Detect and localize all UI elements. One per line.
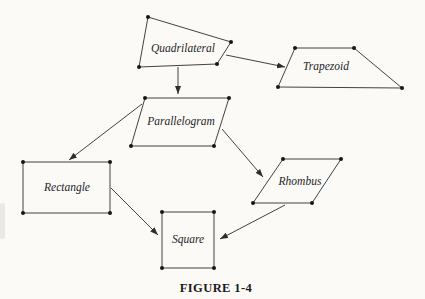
edge-parallelogram-to-rectangle [69,104,142,160]
node-rectangle-vertex-dot [21,160,25,164]
node-rhombus-vertex-dot [339,157,343,161]
node-parallelogram-vertex-dot [212,144,216,148]
node-quadrilateral-label: Quadrilateral [151,42,215,54]
node-rhombus-vertex-dot [310,201,314,205]
edge-rhombus-to-square [220,205,285,239]
node-parallelogram-vertex-dot [129,144,133,148]
node-rhombus-vertex-dot [281,157,285,161]
node-rhombus-vertex-dot [251,201,255,205]
node-trapezoid-vertex-dot [293,46,297,50]
node-parallelogram-vertex-dot [143,96,147,100]
nodes-layer: QuadrilateralTrapezoidParallelogramRecta… [21,15,404,270]
node-trapezoid-vertex-dot [276,85,280,89]
node-quadrilateral-vertex-dot [229,40,233,44]
node-rhombus-label: Rhombus [278,175,322,187]
node-trapezoid-vertex-dot [400,86,404,90]
quadrilateral-hierarchy-diagram: QuadrilateralTrapezoidParallelogramRecta… [0,0,425,299]
node-rectangle-vertex-dot [108,211,112,215]
node-trapezoid-label: Trapezoid [303,60,349,73]
node-trapezoid-vertex-dot [352,46,356,50]
node-quadrilateral-vertex-dot [215,62,219,66]
node-square-vertex-dot [212,210,216,214]
node-parallelogram-label: Parallelogram [146,115,215,128]
node-rectangle-label: Rectangle [43,181,90,194]
edges-layer [69,55,285,239]
scan-artifact [0,203,5,239]
node-quadrilateral-vertex-dot [137,65,141,69]
node-square-vertex-dot [160,210,164,214]
node-quadrilateral-vertex-dot [146,15,150,19]
node-square-label: Square [172,233,204,246]
figure-page: QuadrilateralTrapezoidParallelogramRecta… [0,0,425,299]
node-square-vertex-dot [212,266,216,270]
figure-caption: FIGURE 1-4 [180,281,252,296]
node-parallelogram-vertex-dot [227,96,231,100]
edge-rectangle-to-square [111,188,158,235]
node-rectangle-vertex-dot [21,211,25,215]
node-square-vertex-dot [160,266,164,270]
node-rectangle-vertex-dot [108,160,112,164]
edge-quadrilateral-to-trapezoid [226,55,285,67]
edge-parallelogram-to-rhombus [222,129,263,177]
